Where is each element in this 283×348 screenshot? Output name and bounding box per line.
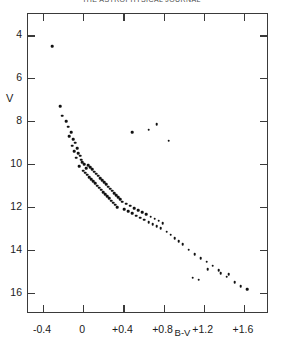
data-point: [75, 156, 78, 159]
data-point: [161, 222, 164, 225]
data-point: [131, 131, 134, 134]
data-point: [121, 200, 124, 203]
data-point: [78, 165, 81, 168]
y-tick-label: 6: [2, 71, 22, 83]
data-point: [220, 272, 223, 275]
y-tick-left: [28, 35, 35, 36]
data-point: [67, 125, 70, 128]
data-point: [246, 288, 249, 291]
x-tick-label: +0.4: [112, 323, 133, 335]
data-point: [193, 253, 196, 256]
data-point: [135, 214, 138, 217]
data-point: [145, 213, 148, 216]
y-tick-right: [260, 207, 267, 208]
plot-frame: [27, 13, 268, 313]
data-point: [153, 217, 156, 220]
data-point: [129, 205, 132, 208]
y-tick-label: 12: [2, 200, 22, 212]
data-point: [72, 138, 75, 141]
y-tick-right: [260, 164, 267, 165]
x-tick-bottom: [43, 305, 44, 312]
x-tick-label: +1.6: [233, 323, 254, 335]
data-point: [205, 260, 208, 263]
x-tick-label: +1.2: [192, 323, 213, 335]
data-point: [151, 223, 154, 226]
data-point: [191, 276, 194, 279]
x-tick-label: +0.8: [152, 323, 173, 335]
data-point: [199, 257, 202, 260]
x-tick-top: [244, 14, 245, 21]
x-tick-top: [123, 14, 124, 21]
data-point: [228, 273, 231, 276]
data-point: [127, 210, 130, 213]
data-point: [147, 128, 150, 131]
data-point: [165, 230, 168, 233]
y-tick-left: [28, 78, 35, 79]
y-tick-label: 10: [2, 157, 22, 169]
data-point: [73, 150, 76, 153]
data-point: [155, 225, 158, 228]
data-point: [159, 227, 162, 230]
data-point: [217, 269, 220, 272]
figure-running-title: THE ASTROPHYSICAL JOURNAL: [0, 0, 283, 6]
x-tick-label: 0: [79, 323, 85, 335]
data-point: [206, 268, 209, 271]
y-axis-title: V: [6, 92, 13, 104]
color-magnitude-diagram: THE ASTROPHYSICAL JOURNAL -0.40+0.4+0.8+…: [0, 0, 283, 348]
y-tick-right: [260, 35, 267, 36]
x-tick-top: [164, 14, 165, 21]
y-tick-left: [28, 121, 35, 122]
x-tick-top: [83, 14, 84, 21]
y-tick-left: [28, 164, 35, 165]
data-point: [139, 216, 142, 219]
data-point: [74, 141, 77, 144]
data-point: [76, 147, 79, 150]
data-point: [116, 206, 119, 209]
y-tick-left: [28, 207, 35, 208]
y-tick-right: [260, 121, 267, 122]
data-point: [51, 45, 54, 48]
data-point: [65, 120, 68, 123]
x-tick-bottom: [204, 305, 205, 312]
x-tick-label: -0.4: [33, 323, 51, 335]
x-tick-bottom: [244, 305, 245, 312]
data-point: [169, 233, 172, 236]
data-point: [187, 248, 190, 251]
data-point: [85, 167, 88, 170]
data-point: [234, 281, 237, 284]
data-point: [133, 207, 136, 210]
data-point: [141, 211, 144, 214]
data-point: [137, 209, 140, 212]
data-point: [71, 145, 74, 148]
data-point: [61, 115, 64, 118]
y-tick-label: 8: [2, 114, 22, 126]
y-tick-left: [28, 250, 35, 251]
x-tick-top: [43, 14, 44, 21]
x-tick-bottom: [164, 305, 165, 312]
x-axis-title: B-V: [175, 327, 191, 338]
data-point: [147, 221, 150, 224]
data-point: [59, 105, 62, 108]
data-point: [181, 243, 184, 246]
data-point: [155, 123, 158, 126]
data-point: [157, 220, 160, 223]
data-point: [125, 202, 128, 205]
data-point: [240, 285, 243, 288]
data-point: [211, 265, 214, 268]
data-point: [123, 208, 126, 211]
y-tick-label: 16: [2, 286, 22, 298]
y-tick-right: [260, 250, 267, 251]
data-point: [83, 163, 86, 166]
y-tick-left: [28, 293, 35, 294]
x-tick-bottom: [123, 305, 124, 312]
y-tick-right: [260, 78, 267, 79]
y-tick-label: 4: [2, 28, 22, 40]
y-tick-right: [260, 293, 267, 294]
x-tick-bottom: [83, 305, 84, 312]
data-point: [70, 131, 73, 134]
x-tick-top: [204, 14, 205, 21]
y-tick-label: 14: [2, 243, 22, 255]
data-point: [68, 135, 71, 138]
data-point: [131, 212, 134, 215]
data-point: [79, 154, 82, 157]
